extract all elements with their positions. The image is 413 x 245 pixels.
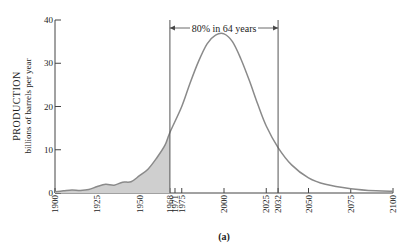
production-curve [55, 33, 393, 191]
y-tick-label: 40 [44, 15, 54, 25]
x-tick-label: 2050 [304, 195, 314, 214]
x-tick-label: 1925 [92, 195, 102, 214]
x-tick-label: 2025 [261, 195, 271, 214]
x-tick-label: 2100 [388, 195, 398, 214]
x-tick-label: 1900 [50, 195, 60, 214]
x-tick-label: 2000 [219, 195, 229, 214]
x-tick-label: 2075 [346, 195, 356, 214]
annotation-text: 80% in 64 years [192, 23, 257, 34]
marker-lines [170, 20, 278, 193]
annotation-80-percent: 80% in 64 years [170, 23, 278, 34]
x-tick-label: 1975 [177, 195, 187, 214]
figure-caption: (a) [218, 231, 230, 243]
oil-production-chart: 010203040 190019251950196819711975200020… [0, 0, 413, 245]
x-tick-label: 1950 [135, 195, 145, 214]
y-tick-label: 10 [44, 145, 54, 155]
x-tick-label: 2032 [273, 195, 283, 213]
y-axis-subtitle: billions of barrels per year [23, 59, 33, 154]
y-ticks: 010203040 [44, 15, 61, 198]
y-axis-label: PRODUCTION billions of barrels per year [11, 59, 33, 154]
y-tick-label: 20 [44, 102, 54, 112]
y-axis-title: PRODUCTION [11, 71, 22, 140]
y-tick-label: 30 [44, 58, 54, 68]
